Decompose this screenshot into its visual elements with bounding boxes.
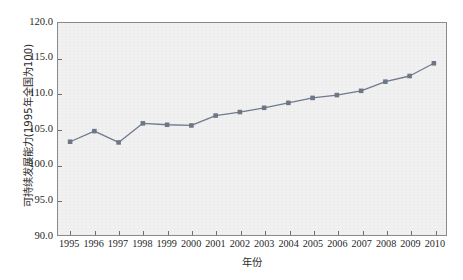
y-tick-mark — [58, 130, 62, 131]
data-point-marker — [116, 140, 121, 145]
data-point-marker — [383, 79, 388, 84]
x-tick-label: 2010 — [415, 239, 455, 249]
plot-area — [57, 22, 447, 236]
x-axis-title: 年份 — [57, 254, 447, 269]
x-tick-mark — [241, 231, 242, 235]
y-tick-mark — [58, 94, 62, 95]
x-tick-mark — [95, 231, 96, 235]
data-series-line — [58, 23, 446, 235]
data-point-marker — [432, 61, 437, 66]
x-tick-mark — [290, 231, 291, 235]
x-tick-mark — [216, 231, 217, 235]
x-tick-mark — [192, 231, 193, 235]
data-point-marker — [286, 101, 291, 106]
y-tick-label: 115.0 — [14, 52, 53, 63]
data-point-marker — [335, 93, 340, 98]
x-tick-mark — [265, 231, 266, 235]
data-point-marker — [407, 74, 412, 79]
x-tick-mark — [70, 231, 71, 235]
x-tick-mark — [363, 231, 364, 235]
data-point-marker — [213, 113, 218, 118]
y-tick-label: 120.0 — [14, 17, 53, 28]
x-tick-mark — [387, 231, 388, 235]
x-axis-tick-labels: 1995199619971998199920002001200220032004… — [57, 239, 447, 253]
y-tick-mark — [58, 166, 62, 167]
x-tick-mark — [411, 231, 412, 235]
y-tick-mark — [58, 59, 62, 60]
data-point-marker — [68, 139, 73, 144]
y-tick-label: 110.0 — [14, 88, 53, 99]
x-tick-mark — [168, 231, 169, 235]
x-tick-mark — [338, 231, 339, 235]
x-tick-mark — [436, 231, 437, 235]
chart-figure: 可持续发展能力(1995年全国为100) 90.095.0100.0105.01… — [0, 0, 463, 280]
y-tick-mark — [58, 201, 62, 202]
y-tick-label: 90.0 — [14, 231, 53, 242]
y-tick-label: 95.0 — [14, 195, 53, 206]
data-point-marker — [262, 106, 267, 111]
x-tick-mark — [119, 231, 120, 235]
y-axis-tick-labels: 90.095.0100.0105.0110.0115.0120.0 — [14, 0, 53, 280]
data-point-marker — [359, 89, 364, 94]
data-point-marker — [92, 129, 97, 134]
data-point-marker — [189, 123, 194, 128]
data-point-marker — [141, 121, 146, 126]
x-tick-mark — [314, 231, 315, 235]
data-point-marker — [310, 96, 315, 101]
x-tick-mark — [143, 231, 144, 235]
data-point-marker — [165, 122, 170, 127]
data-point-marker — [238, 110, 243, 115]
y-tick-label: 100.0 — [14, 159, 53, 170]
y-tick-label: 105.0 — [14, 124, 53, 135]
